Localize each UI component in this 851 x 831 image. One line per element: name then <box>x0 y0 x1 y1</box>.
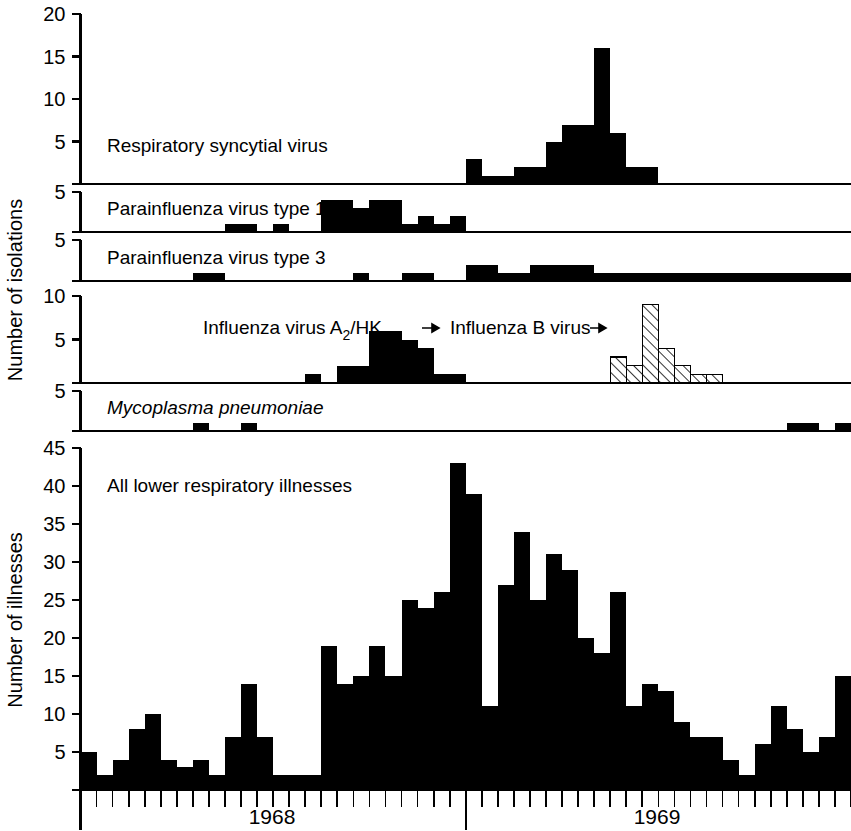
bar <box>707 273 723 281</box>
bar <box>530 167 546 184</box>
bar <box>369 646 385 790</box>
bar <box>530 600 546 790</box>
bar <box>434 374 450 383</box>
bar <box>626 366 642 383</box>
bar-group-influenza_b <box>610 305 722 383</box>
bar <box>498 273 514 281</box>
panel-label-rsv: Respiratory syncytial virus <box>107 135 328 156</box>
bar <box>225 737 241 790</box>
bar <box>546 554 562 790</box>
bar <box>161 760 177 790</box>
bar <box>723 760 739 790</box>
bar <box>321 646 337 790</box>
bar <box>145 714 161 790</box>
bar <box>337 366 353 383</box>
bar <box>353 366 369 383</box>
bar <box>755 744 771 790</box>
bar <box>690 374 706 383</box>
bar <box>209 775 225 790</box>
y-tick-label: 15 <box>43 665 65 687</box>
bar <box>642 273 658 281</box>
y-axis-title-isolations: Number of isolations <box>4 199 26 381</box>
bar <box>289 775 305 790</box>
bar <box>353 273 369 281</box>
bar <box>578 125 594 185</box>
panel-label-influenza-a: Influenza virus A2/HK <box>203 317 382 343</box>
bar <box>305 374 321 383</box>
bar <box>353 676 369 790</box>
bar <box>81 752 97 790</box>
bar <box>305 775 321 790</box>
bar <box>739 775 755 790</box>
bar <box>610 273 626 281</box>
panel-label-para3: Parainfluenza virus type 3 <box>107 247 326 268</box>
bar <box>514 273 530 281</box>
bar <box>418 216 434 232</box>
bar <box>610 357 626 383</box>
bar <box>626 167 642 184</box>
bar <box>819 273 835 281</box>
bar <box>129 729 145 790</box>
y-tick-label: 10 <box>43 285 65 307</box>
bar <box>755 273 771 281</box>
y-tick-label: 5 <box>54 181 65 203</box>
y-tick-label: 20 <box>43 627 65 649</box>
y-tick-label: 5 <box>54 131 65 153</box>
y-tick-label: 35 <box>43 513 65 535</box>
bar <box>337 684 353 790</box>
bar <box>369 331 385 383</box>
bar <box>113 760 129 790</box>
arrow-influenza-b-icon <box>590 324 606 332</box>
y-tick-label: 25 <box>43 589 65 611</box>
bar <box>658 691 674 790</box>
bar <box>482 176 498 185</box>
bar <box>402 340 418 384</box>
bar <box>578 638 594 790</box>
influenza-a-main: Influenza virus A <box>203 317 343 338</box>
bar <box>803 752 819 790</box>
bar <box>466 159 482 185</box>
panel-label-influenza-b: Influenza B virus <box>450 317 590 338</box>
bar <box>337 200 353 232</box>
y-tick-label: 30 <box>43 551 65 573</box>
bar <box>466 265 482 281</box>
bar-group-rsv <box>466 48 659 184</box>
arrow-influenza-a-icon <box>422 324 439 332</box>
bar <box>787 273 803 281</box>
bar <box>241 684 257 790</box>
bar <box>546 142 562 185</box>
bar <box>385 331 401 383</box>
bar <box>434 592 450 790</box>
bar <box>835 676 851 790</box>
bar <box>273 775 289 790</box>
bar <box>739 273 755 281</box>
bar <box>690 737 706 790</box>
y-tick-label: 10 <box>43 88 65 110</box>
y-axis-title-illnesses: Number of illnesses <box>4 532 26 708</box>
bar <box>418 273 434 281</box>
bar <box>257 737 273 790</box>
bar <box>402 600 418 790</box>
year-labels: 1968 1969 <box>249 805 681 828</box>
panel-label-mycoplasma: Mycoplasma pneumoniae <box>107 397 324 418</box>
bar <box>514 167 530 184</box>
y-tick-label: 20 <box>43 3 65 25</box>
bar <box>193 273 209 281</box>
y-tick-label: 40 <box>43 475 65 497</box>
bar <box>626 273 642 281</box>
bar <box>450 216 466 232</box>
bar <box>642 684 658 790</box>
bar <box>418 608 434 790</box>
y-tick-label: 45 <box>43 437 65 459</box>
influenza-a-tail: /HK <box>350 317 382 338</box>
bar <box>610 592 626 790</box>
bar <box>707 737 723 790</box>
surveillance-chart: Number of isolations Number of illnesses… <box>0 0 851 831</box>
bar <box>771 273 787 281</box>
bar <box>482 265 498 281</box>
y-tick-label: 10 <box>43 703 65 725</box>
bar <box>594 48 610 184</box>
bar <box>498 585 514 790</box>
bar <box>353 208 369 232</box>
bar <box>674 722 690 790</box>
